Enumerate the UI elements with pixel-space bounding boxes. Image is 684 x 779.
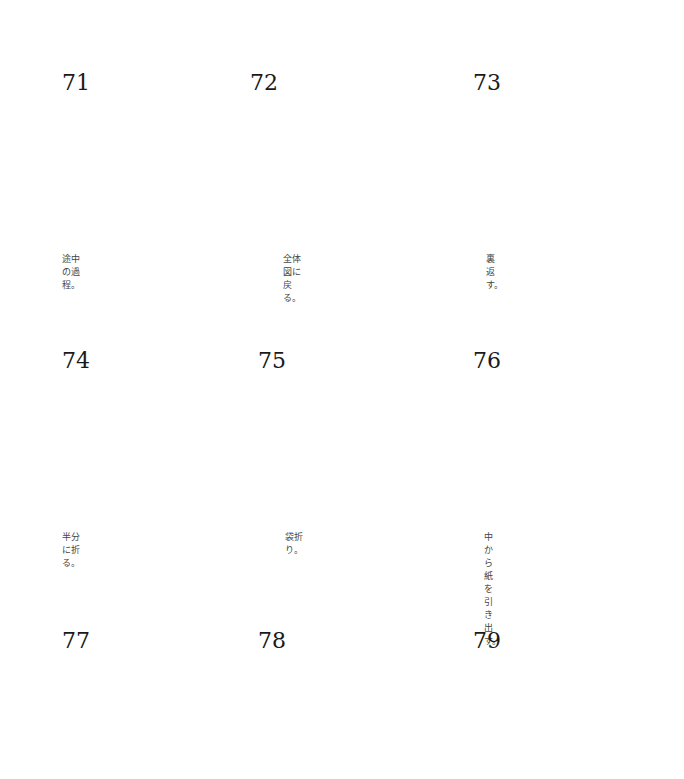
- step-number: 77: [62, 628, 90, 653]
- step-number: 75: [258, 348, 286, 373]
- flip-over-icon: [622, 116, 642, 122]
- step-caption: 半分に折る。: [62, 530, 80, 569]
- step-number: 73: [473, 70, 501, 95]
- step-number: 74: [62, 348, 90, 373]
- step-number: 72: [250, 70, 278, 95]
- step-number: 79: [473, 628, 501, 653]
- step-caption: 裏返す。: [486, 252, 503, 291]
- step-caption: 袋折り。: [285, 530, 303, 556]
- step-number: 78: [258, 628, 286, 653]
- step-caption: 全体図に戻る。: [283, 252, 301, 304]
- step-number: 76: [473, 348, 501, 373]
- step-caption: 途中の過程。: [62, 252, 80, 291]
- step-number: 71: [62, 70, 90, 95]
